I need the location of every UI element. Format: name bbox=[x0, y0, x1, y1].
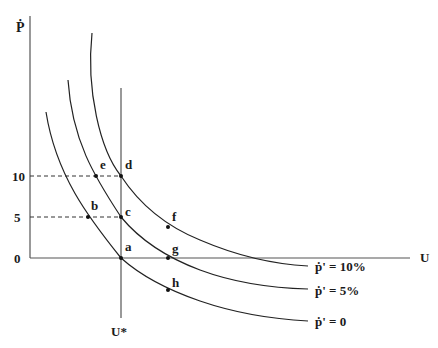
curve-label-10: ṗ' = 10% bbox=[315, 259, 366, 274]
label-c: c bbox=[125, 204, 131, 219]
ustar-label: U* bbox=[111, 324, 127, 339]
point-b bbox=[86, 215, 90, 219]
point-e bbox=[94, 174, 98, 178]
y-axis-label: Ṗ bbox=[16, 19, 25, 35]
label-f: f bbox=[172, 209, 177, 224]
point-g bbox=[166, 256, 170, 260]
point-f bbox=[166, 225, 170, 229]
label-d: d bbox=[125, 157, 133, 172]
label-e: e bbox=[100, 157, 106, 172]
y-tick-5: 5 bbox=[14, 210, 21, 225]
x-axis-label: U bbox=[420, 250, 430, 265]
phillips-curve-diagram: Ṗ U U* 10 5 0 a b c d e f g h ṗ' = 10% ṗ… bbox=[0, 0, 438, 348]
y-tick-10: 10 bbox=[12, 169, 25, 184]
curve-expected-10 bbox=[91, 33, 308, 266]
curve-label-0: ṗ' = 0 bbox=[315, 314, 346, 329]
y-tick-0: 0 bbox=[14, 251, 21, 266]
point-c bbox=[119, 215, 123, 219]
label-g: g bbox=[172, 241, 179, 256]
point-a bbox=[119, 256, 123, 260]
label-h: h bbox=[172, 275, 180, 290]
label-b: b bbox=[91, 198, 98, 213]
label-a: a bbox=[125, 239, 132, 254]
point-d bbox=[119, 174, 123, 178]
curve-label-5: ṗ' = 5% bbox=[315, 283, 359, 298]
point-h bbox=[166, 288, 170, 292]
